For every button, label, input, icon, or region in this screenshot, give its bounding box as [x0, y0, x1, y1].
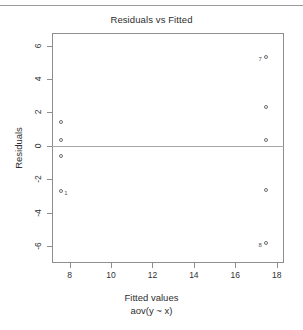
zero-residual-line — [52, 146, 284, 147]
data-point — [59, 120, 63, 124]
y-axis-tick-label: -6 — [33, 242, 43, 250]
x-axis-title: Fitted values — [0, 292, 303, 303]
page-canvas: Residuals vs Fitted 178 810121416186420-… — [0, 0, 303, 330]
y-axis-tick-label: 2 — [33, 110, 43, 115]
point-index-label: 7 — [258, 56, 261, 62]
x-axis-tick — [194, 263, 195, 268]
data-point — [264, 241, 268, 245]
page-title: Residuals vs Fitted — [0, 14, 303, 25]
y-axis-tick-label: 0 — [33, 144, 43, 149]
y-axis-tick-label: 4 — [33, 77, 43, 82]
data-point — [264, 105, 268, 109]
y-axis-tick — [47, 246, 52, 247]
y-axis-title: Residuals — [13, 127, 24, 169]
x-axis-tick — [111, 263, 112, 268]
x-axis-tick — [152, 263, 153, 268]
y-axis-tick-label: 6 — [33, 43, 43, 48]
data-point — [264, 188, 268, 192]
x-axis-tick-label: 12 — [148, 270, 157, 280]
point-index-label: 8 — [258, 242, 261, 248]
residuals-vs-fitted-plot: Residuals vs Fitted 178 810121416186420-… — [0, 0, 303, 330]
x-axis-subtitle: aov(y ~ x) — [0, 305, 303, 316]
y-axis-tick — [47, 213, 52, 214]
x-axis-tick — [70, 263, 71, 268]
data-point — [59, 154, 63, 158]
x-axis-tick-label: 16 — [231, 270, 240, 280]
x-axis-tick-label: 8 — [67, 270, 72, 280]
x-axis-tick-label: 18 — [272, 270, 281, 280]
data-point — [264, 55, 268, 59]
plot-surface: 178 — [52, 33, 284, 263]
y-axis-tick — [47, 146, 52, 147]
y-axis-tick — [47, 79, 52, 80]
data-point — [59, 189, 63, 193]
x-axis-tick-label: 14 — [189, 270, 198, 280]
y-axis-tick-label: -2 — [33, 176, 43, 184]
point-index-label: 1 — [64, 190, 67, 196]
y-axis-tick-label: -4 — [33, 209, 43, 217]
x-axis-tick — [235, 263, 236, 268]
x-axis-tick-label: 10 — [106, 270, 115, 280]
data-point — [264, 138, 268, 142]
y-axis-tick — [47, 179, 52, 180]
y-axis-tick — [47, 112, 52, 113]
y-axis-tick — [47, 46, 52, 47]
x-axis-tick — [277, 263, 278, 268]
data-point — [59, 138, 63, 142]
